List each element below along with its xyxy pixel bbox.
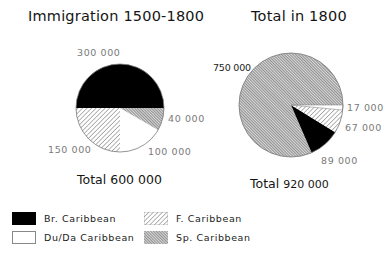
pie-total-1800: [239, 53, 343, 157]
slice-br-caribbean: [76, 64, 164, 108]
legend-label: Br. Caribbean: [44, 213, 116, 224]
legend-label: Sp. Caribbean: [176, 232, 251, 243]
legend-item-f-caribbean: F. Caribbean: [144, 212, 242, 225]
value-label-dud: 100 000: [148, 146, 192, 157]
legend-swatch-light-hatch: [144, 212, 168, 225]
legend-label: Du/Da Caribbean: [44, 232, 134, 243]
value-label-br: 300 000: [77, 47, 121, 58]
legend-item-sp-caribbean: Sp. Caribbean: [144, 231, 251, 244]
total-label: Total: [250, 176, 279, 191]
value-label-dud-1800: 17 000: [347, 102, 384, 113]
legend-swatch-white: [12, 231, 36, 244]
value-label-br-1800: 89 000: [321, 155, 358, 166]
total-label: Total: [77, 172, 106, 187]
chart-title-left: Immigration 1500-1800: [28, 8, 204, 24]
legend-swatch-dense-hatch: [144, 231, 168, 244]
value-label-sp: 40 000: [168, 113, 205, 124]
legend-swatch-solid-black: [12, 212, 36, 225]
total-left: Total 600 000: [77, 172, 162, 187]
value-label-f: 150 000: [48, 144, 92, 155]
value-label-f-1800: 67 000: [345, 122, 382, 133]
legend-label: F. Caribbean: [176, 213, 242, 224]
pie-immigration-1500-1800: [76, 64, 164, 152]
legend-item-br-caribbean: Br. Caribbean: [12, 212, 116, 225]
legend-item-dud-caribbean: Du/Da Caribbean: [12, 231, 134, 244]
chart-title-right: Total in 1800: [251, 8, 347, 24]
total-value: 920 000: [283, 178, 329, 191]
total-value: 600 000: [110, 172, 162, 187]
value-label-sp-1800: 750 000: [213, 62, 251, 73]
total-right: Total 920 000: [250, 176, 329, 191]
